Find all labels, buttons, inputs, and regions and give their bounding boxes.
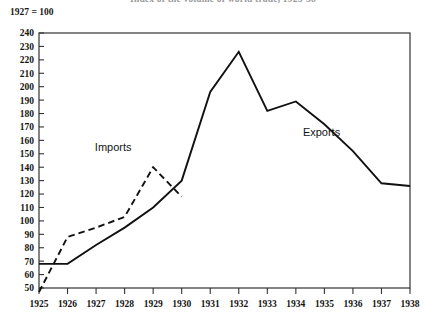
y-axis-ticks: [39, 33, 44, 288]
series-label-imports: Imports: [95, 141, 132, 153]
x-axis-tick-label: 1936: [343, 299, 362, 309]
y-axis-tick-label: 230: [20, 42, 35, 52]
x-axis-tick-label: 1930: [172, 299, 191, 309]
y-axis-tick-label: 50: [25, 283, 35, 293]
y-axis-tick-label: 100: [20, 216, 35, 226]
x-axis-tick-label: 1933: [258, 299, 277, 309]
y-axis-tick-label: 120: [20, 189, 35, 199]
y-axis-tick-label: 220: [20, 55, 35, 65]
y-axis-tick-label: 240: [20, 28, 35, 38]
y-axis-tick-label: 180: [20, 109, 35, 119]
x-axis-ticks: [39, 288, 410, 294]
y-axis-tick-label: 130: [20, 176, 35, 186]
x-axis-tick-label: 1926: [58, 299, 77, 309]
x-axis-tick-label: 1938: [401, 299, 420, 309]
y-axis-tick-label: 150: [20, 149, 35, 159]
line-chart-plot: 5060708090100110120130140150160170180190…: [0, 0, 424, 329]
y-axis-tick-label: 60: [25, 270, 35, 280]
y-axis-tick-label: 70: [25, 257, 35, 267]
chart-figure: Index of the volume of world trade, 1925…: [0, 0, 424, 329]
x-axis-tick-label: 1929: [144, 299, 163, 309]
x-axis-tick-label: 1934: [286, 299, 305, 309]
series-line-exports: [39, 52, 410, 264]
y-axis-tick-label: 110: [20, 203, 34, 213]
y-axis-tick-labels: 5060708090100110120130140150160170180190…: [20, 28, 35, 293]
x-axis-tick-label: 1927: [87, 299, 106, 309]
y-axis-tick-label: 80: [25, 243, 35, 253]
series-label-exports: Exports: [303, 126, 341, 138]
y-axis-tick-label: 190: [20, 96, 35, 106]
x-axis-tick-label: 1931: [201, 299, 220, 309]
x-axis-tick-label: 1932: [229, 299, 248, 309]
y-axis-tick-label: 210: [20, 69, 35, 79]
series-line-imports: [39, 167, 182, 292]
y-axis-tick-label: 90: [25, 230, 35, 240]
y-axis-tick-label: 160: [20, 136, 35, 146]
x-axis-tick-label: 1928: [115, 299, 134, 309]
y-axis-tick-label: 140: [20, 163, 35, 173]
x-axis-tick-label: 1937: [372, 299, 391, 309]
x-axis-tick-label: 1925: [30, 299, 49, 309]
y-axis-tick-label: 200: [20, 82, 35, 92]
y-axis-tick-label: 170: [20, 122, 35, 132]
x-axis-tick-label: 1935: [315, 299, 334, 309]
x-axis-tick-labels: 1925192619271928192919301931193219331934…: [30, 299, 420, 309]
